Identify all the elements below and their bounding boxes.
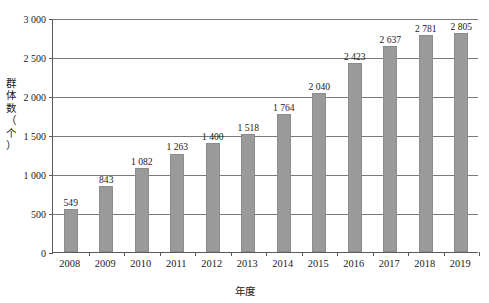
x-axis-category-label: 2019 [450, 258, 471, 269]
bar [312, 93, 326, 252]
x-axis-category-label: 2012 [201, 258, 222, 269]
bar [206, 143, 220, 252]
y-axis-tick [49, 58, 53, 59]
y-axis-title: 群 体 数 （ 个 ） [2, 78, 20, 152]
x-axis-tick [408, 252, 409, 256]
y-axis-tick-label: 500 [31, 209, 46, 220]
bar-value-label: 2 423 [344, 51, 366, 62]
y-axis-title-char-0: 群 [2, 78, 20, 90]
bar [419, 35, 433, 252]
x-axis-tick [195, 252, 196, 256]
x-axis-category-label: 2014 [272, 258, 293, 269]
bar [99, 186, 113, 252]
y-axis-title-char-2: 数 [2, 103, 20, 115]
gridline [53, 136, 478, 137]
x-axis-category-label: 2017 [379, 258, 400, 269]
bar-value-label: 549 [64, 197, 78, 208]
y-axis-title-char-3: （ [2, 115, 20, 127]
x-axis-category-label: 2010 [130, 258, 151, 269]
x-axis-category-label: 2018 [414, 258, 435, 269]
plot-area: 05001 0001 5002 0002 5003 0005498431 082… [52, 19, 478, 253]
bar-value-label: 1 263 [166, 141, 188, 152]
y-axis-title-char-5: ） [2, 140, 20, 152]
x-axis-category-label: 2016 [343, 258, 364, 269]
bar-value-label: 843 [99, 174, 113, 185]
bar-value-label: 2 637 [379, 34, 401, 45]
bar [454, 33, 468, 252]
bar-value-label: 2 040 [308, 81, 330, 92]
gridline [53, 97, 478, 98]
y-axis-tick [49, 19, 53, 20]
x-axis-tick [337, 252, 338, 256]
gridline [53, 175, 478, 176]
y-axis-tick-label: 1 000 [24, 170, 47, 181]
x-axis-tick [373, 252, 374, 256]
y-axis-tick [49, 97, 53, 98]
x-axis-category-label: 2015 [308, 258, 329, 269]
gridline [53, 214, 478, 215]
x-axis-tick [266, 252, 267, 256]
bar-value-label: 1 518 [237, 122, 259, 133]
y-axis-tick-label: 0 [41, 248, 46, 259]
bar [277, 114, 291, 252]
x-axis-tick [479, 252, 480, 256]
x-axis-category-label: 2011 [166, 258, 186, 269]
x-axis-category-label: 2013 [237, 258, 258, 269]
x-axis-category-label: 2008 [59, 258, 80, 269]
x-axis-category-label: 2009 [95, 258, 116, 269]
y-axis-tick-label: 1 500 [24, 131, 47, 142]
y-axis-tick [49, 136, 53, 137]
bar-value-label: 2 805 [450, 21, 472, 32]
y-axis-tick [49, 214, 53, 215]
x-axis-tick [124, 252, 125, 256]
bar-chart-figure: 群 体 数 （ 个 ） 05001 0001 5002 0002 5003 00… [0, 0, 489, 303]
bar-value-label: 2 781 [415, 23, 437, 34]
y-axis-tick [49, 253, 53, 254]
y-axis-tick [49, 175, 53, 176]
x-axis-title: 年度 [0, 283, 489, 298]
x-axis-tick [89, 252, 90, 256]
bar [170, 154, 184, 253]
bar-value-label: 1 764 [273, 102, 295, 113]
y-axis-tick-label: 2 500 [24, 53, 47, 64]
bar [348, 63, 362, 252]
bar [383, 46, 397, 252]
y-axis-tick-label: 2 000 [24, 92, 47, 103]
gridline [53, 58, 478, 59]
bar [241, 134, 255, 252]
bar-value-label: 1 082 [131, 156, 153, 167]
x-axis-tick [231, 252, 232, 256]
bar [135, 168, 149, 252]
x-axis-tick [444, 252, 445, 256]
y-axis-title-char-4: 个 [2, 128, 20, 140]
y-axis-title-char-1: 体 [2, 90, 20, 102]
bar-value-label: 1 400 [202, 131, 224, 142]
y-axis-tick-label: 3 000 [24, 14, 47, 25]
x-axis-tick [160, 252, 161, 256]
x-axis-tick [302, 252, 303, 256]
gridline [53, 19, 478, 20]
bar [64, 209, 78, 252]
